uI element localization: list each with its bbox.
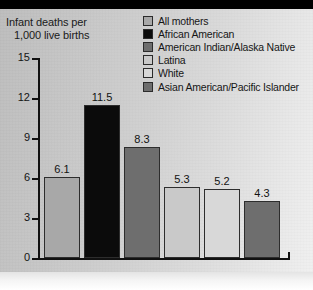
legend-item: African American <box>143 27 313 40</box>
bar <box>84 105 120 258</box>
y-axis-tick-mark <box>32 178 38 180</box>
bar <box>124 147 160 258</box>
bar-column: 4.3 <box>244 58 280 258</box>
bar <box>44 177 80 258</box>
bar-column: 5.2 <box>204 58 240 258</box>
legend-item-label: African American <box>158 28 234 40</box>
bar-column: 8.3 <box>124 58 160 258</box>
bar-value-label: 5.2 <box>214 175 229 187</box>
y-axis-title: Infant deaths per 1,000 live births <box>6 16 134 42</box>
bar-group: 6.111.58.35.35.24.3 <box>44 58 288 258</box>
bar-value-label: 8.3 <box>134 133 149 145</box>
bar-column: 6.1 <box>44 58 80 258</box>
title-band <box>0 0 313 9</box>
y-axis-title-line2: 1,000 live births <box>6 29 134 42</box>
y-axis-tick-label: 9 <box>6 131 30 143</box>
bar <box>244 201 280 258</box>
y-axis-tick-label: 0 <box>6 251 30 263</box>
bar-value-label: 6.1 <box>54 163 69 175</box>
bar-column: 11.5 <box>84 58 120 258</box>
bar-value-label: 11.5 <box>92 91 113 103</box>
bar-value-label: 4.3 <box>254 187 269 199</box>
bar <box>164 187 200 258</box>
y-axis-tick-mark <box>32 218 38 220</box>
y-axis-line <box>38 58 40 260</box>
legend-item: All mothers <box>143 14 313 27</box>
page-bottom-edge <box>0 272 313 290</box>
infant-mortality-bar-chart: Infant deaths per 1,000 live births All … <box>0 0 313 290</box>
y-axis-tick-label: 15 <box>6 51 30 63</box>
x-axis-end-tick <box>288 252 290 260</box>
y-axis-tick-mark <box>32 58 38 60</box>
y-axis-tick-mark <box>32 98 38 100</box>
y-axis-title-line1: Infant deaths per <box>6 16 134 29</box>
legend-item: American Indian/Alaska Native <box>143 40 313 53</box>
y-axis-tick-label: 3 <box>6 211 30 223</box>
bar-value-label: 5.3 <box>174 173 189 185</box>
y-axis-tick-mark <box>32 258 38 260</box>
plot-area: 03691215 6.111.58.35.35.24.3 <box>38 58 296 260</box>
legend-swatch-icon <box>143 42 153 52</box>
y-axis-tick-label: 12 <box>6 91 30 103</box>
legend-item-label: American Indian/Alaska Native <box>158 41 295 53</box>
y-axis-tick-label: 6 <box>6 171 30 183</box>
x-axis-line <box>38 258 290 260</box>
legend-item-label: All mothers <box>158 15 208 27</box>
legend-swatch-icon <box>143 29 153 39</box>
bar-column: 5.3 <box>164 58 200 258</box>
bar <box>204 189 240 258</box>
y-axis-tick-mark <box>32 138 38 140</box>
legend-swatch-icon <box>143 16 153 26</box>
